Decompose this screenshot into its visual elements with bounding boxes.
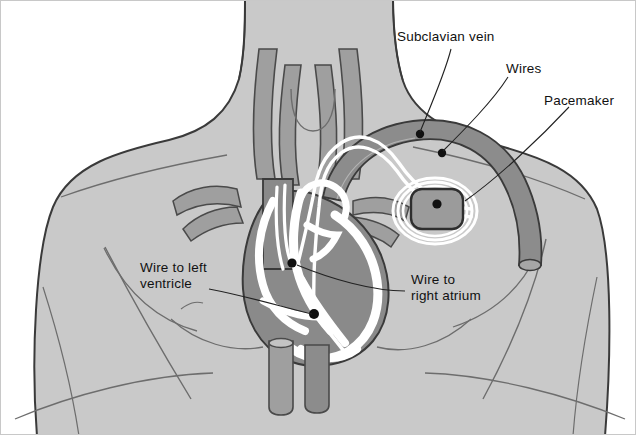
label-wire-to-right-atrium-line2: right atrium (411, 288, 481, 304)
label-pacemaker: Pacemaker (544, 93, 614, 109)
inferior-vena-cava (305, 345, 329, 413)
label-wire-to-left-ventricle-line2: ventricle (140, 276, 207, 292)
pacemaker-device (411, 189, 463, 229)
label-wire-to-left-ventricle-line1: Wire to left (140, 260, 207, 276)
label-wire-to-right-atrium-line1: Wire to (411, 272, 481, 288)
label-wire-to-right-atrium: Wire to right atrium (411, 272, 481, 304)
label-wire-to-left-ventricle: Wire to left ventricle (140, 260, 207, 292)
subclavian-vein-cut-end (519, 260, 541, 271)
electrode-pacemaker-terminal (432, 199, 441, 208)
pacemaker-diagram-figure: Subclavian vein Wires Pacemaker Wire to … (0, 0, 636, 435)
descending-aorta-cut-end (269, 339, 293, 348)
label-subclavian-vein: Subclavian vein (397, 29, 495, 45)
electrode-subclavian-lower (438, 149, 446, 157)
electrode-right-atrium (287, 258, 296, 267)
label-wires: Wires (506, 61, 542, 77)
descending-aorta (269, 341, 293, 415)
